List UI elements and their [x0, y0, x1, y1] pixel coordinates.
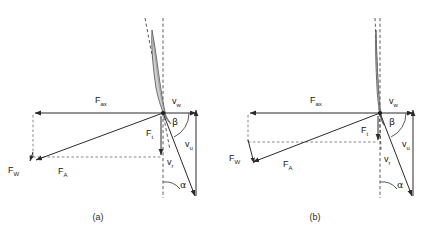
vector-v-r-a: [163, 113, 195, 196]
label-v-w-b: vw: [389, 96, 399, 108]
label-beta-a: β: [172, 116, 178, 127]
label-f-w-a: FW: [8, 165, 20, 177]
vector-diagram-b: Fax FW FA Ft vw vu vr β α (b): [215, 0, 429, 233]
angle-arc-alpha-a: [163, 182, 180, 189]
label-alpha-b: α: [397, 179, 403, 190]
label-f-t-b: Ft: [361, 125, 369, 137]
caption-b: (b): [310, 212, 321, 222]
vector-f-w-b: [248, 140, 254, 163]
label-v-w-a: vw: [172, 96, 182, 108]
label-f-a-b: FA: [283, 159, 293, 171]
vector-f-a-a: [36, 113, 163, 160]
hub-node-a: [161, 111, 165, 115]
vector-f-a-b: [253, 113, 380, 162]
diagram-panel-b: Fax FW FA Ft vw vu vr β α (b): [215, 0, 429, 233]
label-f-w-b: FW: [229, 153, 241, 165]
label-v-r-b: vr: [384, 154, 391, 166]
label-alpha-a: α: [180, 179, 186, 190]
label-v-u-b: vu: [402, 139, 410, 151]
caption-a: (a): [93, 212, 104, 222]
vector-diagram-a: Fax FW FA Ft vw vu vr β α (a): [0, 0, 214, 233]
label-f-ax-a: Fax: [95, 95, 107, 107]
hub-node-b: [378, 111, 382, 115]
airfoil-blade-a: [152, 30, 171, 124]
label-v-u-a: vu: [185, 139, 193, 151]
vector-f-w-a: [30, 152, 33, 161]
diagram-panel-a: Fax FW FA Ft vw vu vr β α (a): [0, 0, 214, 233]
angle-arc-alpha-b: [380, 182, 397, 189]
label-f-ax-b: Fax: [310, 95, 322, 107]
figure-canvas: Fax FW FA Ft vw vu vr β α (a): [0, 0, 429, 233]
label-f-t-a: Ft: [146, 128, 154, 140]
airfoil-blade-b: [376, 30, 384, 125]
label-v-r-a: vr: [167, 157, 174, 169]
label-f-a-a: FA: [58, 166, 68, 178]
label-beta-b: β: [389, 116, 395, 127]
